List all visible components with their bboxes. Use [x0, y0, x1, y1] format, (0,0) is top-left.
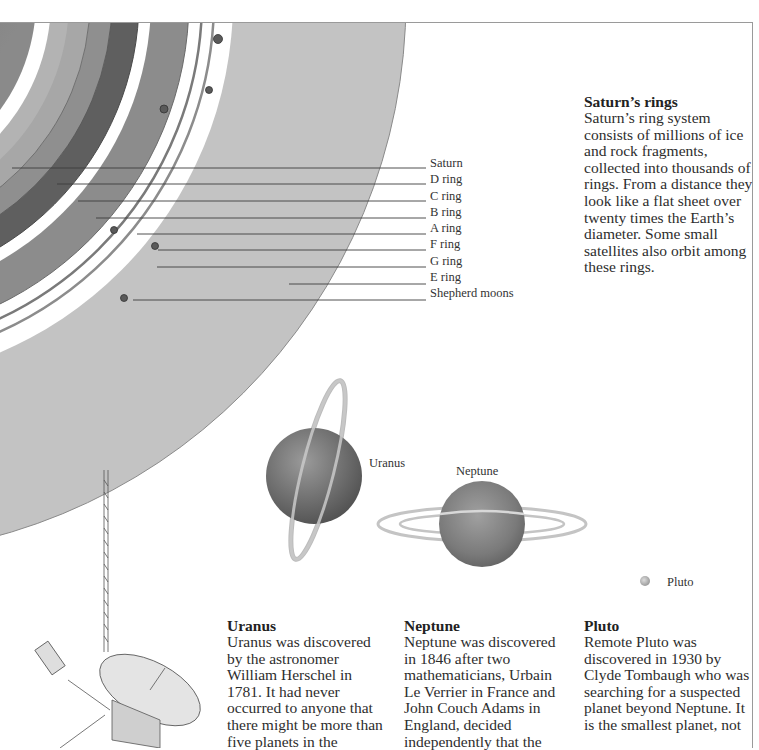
label-pluto: Pluto	[667, 575, 693, 589]
pluto-illustration	[640, 576, 650, 586]
moon	[121, 295, 128, 302]
moon	[160, 105, 168, 113]
pluto-section: Pluto Remote Pluto was discovered in 193…	[584, 617, 754, 734]
label-f-ring: F ring	[430, 236, 514, 252]
neptune-heading: Neptune	[404, 617, 564, 634]
pluto-heading: Pluto	[584, 617, 754, 634]
label-c-ring: C ring	[430, 188, 514, 204]
saturn-rings-body: Saturn’s ring system consists of million…	[584, 110, 759, 276]
label-shepherd-moons: Shepherd moons	[430, 285, 514, 301]
moon	[152, 243, 159, 250]
moon	[214, 35, 223, 44]
moon	[206, 87, 213, 94]
uranus-section: Uranus Uranus was discovered by the astr…	[227, 617, 387, 750]
uranus-heading: Uranus	[227, 617, 387, 634]
uranus-illustration	[266, 377, 362, 563]
uranus-body: Uranus was discovered by the astronomer …	[227, 634, 387, 750]
label-b-ring: B ring	[430, 204, 514, 220]
neptune-body: Neptune was discovered in 1846 after two…	[404, 634, 564, 750]
label-a-ring: A ring	[430, 220, 514, 236]
neptune-illustration	[378, 481, 586, 567]
label-d-ring: D ring	[430, 171, 514, 187]
saturn-rings-heading: Saturn’s rings	[584, 93, 759, 110]
label-saturn: Saturn	[430, 155, 514, 171]
label-neptune: Neptune	[456, 464, 498, 478]
moon	[111, 227, 118, 234]
saturn-rings-section: Saturn’s rings Saturn’s ring system cons…	[584, 93, 759, 276]
pluto-body: Remote Pluto was discovered in 1930 by C…	[584, 634, 754, 734]
label-e-ring: E ring	[430, 269, 514, 285]
label-g-ring: G ring	[430, 253, 514, 269]
label-uranus: Uranus	[369, 456, 405, 470]
saturn-ring-labels: Saturn D ring C ring B ring A ring F rin…	[430, 155, 514, 302]
neptune-section: Neptune Neptune was discovered in 1846 a…	[404, 617, 564, 750]
